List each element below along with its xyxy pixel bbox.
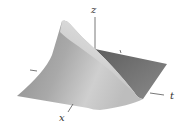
x-axis-label: x [59, 112, 65, 123]
t-axis-label: t [170, 90, 175, 101]
t-axis-tick [120, 50, 121, 53]
x-axis [68, 104, 73, 112]
x-axis-back-tick [30, 70, 37, 71]
t-axis [150, 93, 164, 95]
z-axis-label: z [90, 4, 97, 15]
surface-plot: z t x [0, 0, 185, 133]
